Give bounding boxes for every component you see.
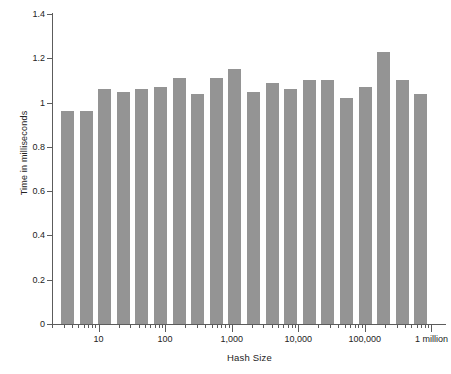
x-axis-tick-minor xyxy=(64,324,65,328)
bar xyxy=(61,111,74,324)
x-axis-tick-minor xyxy=(385,324,386,328)
x-axis-tick-minor xyxy=(272,324,273,328)
x-axis-tick-minor xyxy=(350,324,351,328)
x-axis-tick-major xyxy=(431,324,432,332)
y-axis-tick-label: 1 xyxy=(5,98,45,108)
x-axis-tick-label: 100,000 xyxy=(349,334,382,344)
x-axis-tick-label: 1 million xyxy=(415,334,448,344)
bar xyxy=(117,92,130,325)
x-axis-tick-major xyxy=(365,324,366,332)
bar xyxy=(414,94,427,324)
x-axis-tick-major xyxy=(165,324,166,332)
bar xyxy=(340,98,353,324)
x-axis-title: Hash Size xyxy=(53,352,446,363)
x-axis-tick-minor xyxy=(72,324,73,328)
bar xyxy=(359,87,372,324)
x-axis-tick-minor xyxy=(119,324,120,328)
x-axis-tick-minor xyxy=(229,324,230,328)
bar xyxy=(154,87,167,324)
y-axis-tick-label: 1.4 xyxy=(5,9,45,19)
x-axis-tick-minor xyxy=(330,324,331,328)
y-axis-tick-label: 0.4 xyxy=(5,230,45,240)
bar xyxy=(98,89,111,324)
x-axis-tick-minor xyxy=(318,324,319,328)
bar xyxy=(377,52,390,324)
x-axis-tick-minor xyxy=(95,324,96,328)
x-axis-tick-minor xyxy=(355,324,356,328)
x-axis-tick-minor xyxy=(278,324,279,328)
bar xyxy=(266,83,279,324)
x-axis-tick-minor xyxy=(205,324,206,328)
x-axis-line xyxy=(52,324,446,325)
x-axis-tick-minor xyxy=(411,324,412,328)
x-axis-tick-minor xyxy=(52,324,53,328)
x-axis-tick-minor xyxy=(84,324,85,328)
x-axis-tick-minor xyxy=(292,324,293,328)
y-axis-tick-label: 0 xyxy=(5,319,45,329)
bar xyxy=(321,80,334,324)
x-axis-tick-label: 10 xyxy=(94,334,104,344)
bar xyxy=(247,92,260,325)
y-axis-tick-label: 0.2 xyxy=(5,275,45,285)
x-axis-tick-minor xyxy=(263,324,264,328)
x-axis-tick-minor xyxy=(197,324,198,328)
x-axis-tick-minor xyxy=(221,324,222,328)
x-axis-tick-minor xyxy=(159,324,160,328)
x-axis-tick-label: 100 xyxy=(158,334,173,344)
x-axis-tick-minor xyxy=(425,324,426,328)
x-axis-tick-minor xyxy=(225,324,226,328)
bar xyxy=(191,94,204,324)
x-axis-tick-minor xyxy=(338,324,339,328)
x-axis-tick-minor xyxy=(358,324,359,328)
x-axis-tick-minor xyxy=(88,324,89,328)
x-axis-tick-minor xyxy=(283,324,284,328)
x-axis-tick-minor xyxy=(185,324,186,328)
plot-area xyxy=(53,14,446,324)
bar xyxy=(173,78,186,324)
x-axis-tick-minor xyxy=(92,324,93,328)
bar-chart-figure: Time in milliseconds 00.20.40.60.811.21.… xyxy=(0,0,451,374)
bar xyxy=(303,80,316,324)
y-axis-tick-label: 1.2 xyxy=(5,53,45,63)
x-axis-tick-minor xyxy=(421,324,422,328)
x-axis-tick-minor xyxy=(139,324,140,328)
bar xyxy=(210,78,223,324)
x-axis-tick-minor xyxy=(345,324,346,328)
bar xyxy=(80,111,93,324)
x-axis-tick-minor xyxy=(252,324,253,328)
x-axis-tick-minor xyxy=(150,324,151,328)
x-axis-tick-major xyxy=(232,324,233,332)
x-axis-tick-label: 10,000 xyxy=(284,334,312,344)
x-axis-tick-minor xyxy=(212,324,213,328)
x-axis-tick-minor xyxy=(417,324,418,328)
bar xyxy=(228,69,241,324)
x-axis-tick-minor xyxy=(162,324,163,328)
x-axis-tick-minor xyxy=(155,324,156,328)
y-axis-tick-label: 0.8 xyxy=(5,142,45,152)
x-axis-tick-minor xyxy=(288,324,289,328)
x-axis-tick-minor xyxy=(295,324,296,328)
x-axis-tick-minor xyxy=(362,324,363,328)
x-axis-tick-minor xyxy=(397,324,398,328)
x-axis-tick-minor xyxy=(217,324,218,328)
bar xyxy=(284,89,297,324)
x-axis-tick-minor xyxy=(405,324,406,328)
y-axis-tick-label: 0.6 xyxy=(5,186,45,196)
x-axis-tick-minor xyxy=(130,324,131,328)
x-axis-tick-major xyxy=(99,324,100,332)
x-axis-tick-label: 1,000 xyxy=(220,334,243,344)
bar xyxy=(135,89,148,324)
x-axis-tick-minor xyxy=(78,324,79,328)
x-axis-tick-major xyxy=(298,324,299,332)
x-axis-tick-minor xyxy=(145,324,146,328)
bar xyxy=(396,80,409,324)
x-axis-tick-minor xyxy=(428,324,429,328)
